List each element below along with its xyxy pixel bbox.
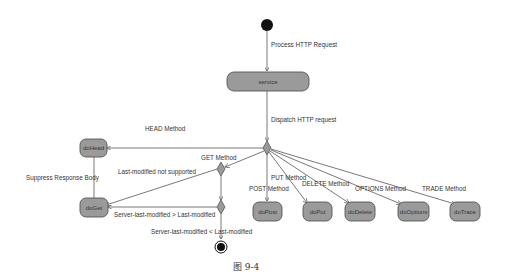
node-doGet: doGet bbox=[80, 198, 108, 217]
edge-label-options: OPTIONS Method bbox=[355, 185, 407, 192]
edge-label-delete: DELETE Method bbox=[302, 180, 350, 187]
node-label: doTrace bbox=[454, 209, 476, 215]
edge-label-dispatch: Dispatch HTTP request bbox=[271, 116, 337, 124]
edge-label-trade: TRADE Method bbox=[422, 185, 467, 192]
edge-label-get: GET Method bbox=[201, 154, 237, 161]
initial-node bbox=[261, 19, 273, 31]
node-label: doDelete bbox=[348, 209, 373, 215]
node-label: doOptions bbox=[400, 209, 427, 215]
edge-label-less-equal: Server-last-modified < Last-modified bbox=[151, 228, 253, 235]
node-doPut: doPut bbox=[303, 202, 332, 221]
edge-label-greater: Server-last-modified > Last-modified bbox=[114, 211, 216, 218]
edge-label-not-supported: Last-modified not supported bbox=[118, 168, 197, 176]
final-node bbox=[215, 241, 227, 253]
edge-label-process: Process HTTP Request bbox=[271, 41, 337, 49]
node-label: doPost bbox=[258, 209, 277, 215]
edge-label-suppress: Suppress Response Body bbox=[26, 174, 100, 182]
node-label: doPut bbox=[310, 209, 326, 215]
node-doDelete: doDelete bbox=[345, 202, 375, 221]
node-doOptions: doOptions bbox=[398, 202, 429, 221]
decision-compare bbox=[217, 200, 225, 214]
activity-diagram: Process HTTP Request service Dispatch HT… bbox=[0, 0, 506, 276]
node-doHead: doHead bbox=[80, 139, 107, 157]
node-label: service bbox=[258, 79, 278, 85]
node-label: doHead bbox=[83, 145, 104, 151]
node-doTrace: doTrace bbox=[450, 202, 480, 221]
decision-last-modified bbox=[217, 162, 225, 176]
node-doPost: doPost bbox=[253, 202, 282, 221]
figure-caption: 图 9-4 bbox=[233, 262, 260, 272]
edge-label-head: HEAD Method bbox=[145, 125, 186, 132]
node-label: doGet bbox=[86, 205, 103, 211]
edge-label-post: POST Method bbox=[249, 185, 289, 192]
node-service: service bbox=[227, 72, 309, 91]
